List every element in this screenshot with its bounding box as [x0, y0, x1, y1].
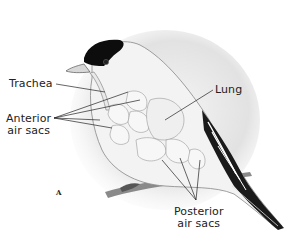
label-anterior-air-sacs: Anterior air sacs [6, 113, 51, 137]
label-anterior-line2: air sacs [6, 125, 51, 137]
label-posterior-line2: air sacs [174, 218, 224, 230]
label-trachea: Trachea [9, 78, 53, 90]
panel-letter: A [56, 188, 61, 197]
bird-beak [66, 64, 90, 73]
bird-respiratory-diagram: Trachea Anterior air sacs Lung Posterior… [0, 0, 292, 241]
bird-eye [103, 59, 108, 64]
label-lung: Lung [215, 84, 242, 96]
label-posterior-air-sacs: Posterior air sacs [174, 206, 224, 230]
